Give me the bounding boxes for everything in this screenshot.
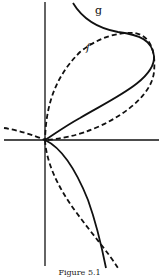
diagram-canvas xyxy=(0,0,159,280)
curve-f xyxy=(4,33,154,268)
curve-f-label: f xyxy=(86,42,90,53)
curve-g-label: g xyxy=(95,5,102,16)
figure-caption: Figure 5.1 xyxy=(0,268,159,277)
curve-g xyxy=(45,3,154,268)
figure: g f Figure 5.1 xyxy=(0,0,159,280)
